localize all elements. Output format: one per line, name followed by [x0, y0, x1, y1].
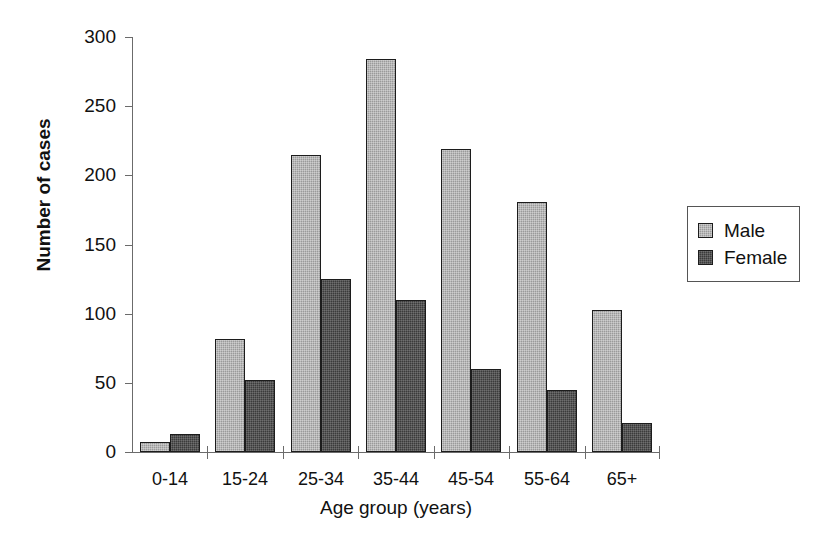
bar-male-65+ [592, 310, 622, 452]
y-axis-tick-label: 100 [84, 303, 116, 325]
x-axis-tick [358, 446, 359, 459]
x-axis-tick [207, 446, 208, 459]
y-axis-tick: 300 [125, 37, 133, 38]
legend-swatch-male-icon [698, 223, 713, 238]
y-axis-tick-label: 0 [105, 441, 116, 463]
x-axis-tick [283, 446, 284, 459]
x-axis-group-label: 25-34 [298, 469, 344, 490]
bar-female-0-14 [170, 434, 200, 452]
bar-male-35-44 [366, 59, 396, 452]
plot-area: 0501001502002503000-1415-2425-3435-4445-… [132, 37, 660, 452]
bar-chart: Number of cases 0501001502002503000-1415… [0, 0, 825, 547]
y-axis-tick-label: 250 [84, 95, 116, 117]
x-axis-group-label: 15-24 [222, 469, 268, 490]
legend: Male Female [687, 206, 800, 282]
legend-item-female: Female [698, 244, 787, 271]
x-axis-tick [509, 446, 510, 459]
y-axis-tick: 250 [125, 106, 133, 107]
bar-male-45-54 [441, 149, 471, 452]
y-axis-tick: 100 [125, 314, 133, 315]
legend-label-female: Female [724, 247, 787, 269]
bar-female-55-64 [547, 390, 577, 452]
legend-item-male: Male [698, 217, 787, 244]
y-axis-tick-label: 300 [84, 26, 116, 48]
x-axis-group-label: 35-44 [373, 469, 419, 490]
y-axis-tick: 0 [125, 452, 133, 453]
x-axis-group-label: 45-54 [448, 469, 494, 490]
x-axis-tick [659, 446, 660, 459]
y-axis-tick-label: 50 [95, 372, 116, 394]
x-axis-line [132, 452, 660, 453]
y-axis-tick-label: 200 [84, 164, 116, 186]
bar-female-45-54 [471, 369, 501, 452]
y-axis-tick: 200 [125, 175, 133, 176]
x-axis-tick [434, 446, 435, 459]
legend-label-male: Male [724, 220, 765, 242]
y-axis-tick: 150 [125, 245, 133, 246]
x-axis-tick [585, 446, 586, 459]
x-axis-group-label: 65+ [607, 469, 638, 490]
x-axis-group-label: 55-64 [524, 469, 570, 490]
x-axis-title: Age group (years) [132, 497, 660, 519]
x-axis-group-label: 0-14 [152, 469, 188, 490]
bar-male-25-34 [291, 155, 321, 452]
bar-male-15-24 [215, 339, 245, 452]
bar-male-55-64 [517, 202, 547, 452]
bar-female-15-24 [245, 380, 275, 452]
y-axis-title: Number of cases [33, 85, 55, 305]
y-axis-tick: 50 [125, 383, 133, 384]
bar-female-25-34 [321, 279, 351, 452]
y-axis-tick-label: 150 [84, 234, 116, 256]
bar-female-65+ [622, 423, 652, 452]
bar-male-0-14 [140, 442, 170, 452]
legend-swatch-female-icon [698, 250, 713, 265]
bar-female-35-44 [396, 300, 426, 452]
